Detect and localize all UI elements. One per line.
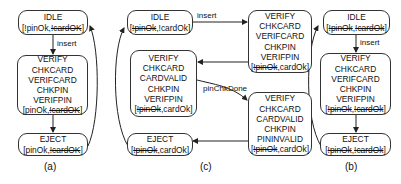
state-guard: [!pinOk,!cardOk] xyxy=(325,145,386,155)
state-line: VERIFCARD xyxy=(331,74,379,84)
guard-card: cardOk xyxy=(163,104,190,114)
state-guard: [!pinOk,cardOk] xyxy=(134,104,192,114)
state-guard: [!pinOk,cardOk] xyxy=(251,144,309,154)
state-line: CHKPIN xyxy=(148,84,180,94)
guard-card: !cardOk xyxy=(159,23,188,33)
state-line: CHKPIN xyxy=(340,84,372,94)
state-eject-c: EJECT [!pinOk,cardOk] xyxy=(127,133,193,156)
guard-pin: !pinOk xyxy=(253,62,277,72)
state-line: CHKPIN xyxy=(264,124,296,134)
guard-close: ] xyxy=(384,23,386,33)
state-line: VERIFY xyxy=(265,93,295,103)
state-line: CHKCARD xyxy=(335,64,376,74)
guard-close: ] xyxy=(383,145,385,155)
state-line: CARDVALID xyxy=(256,114,303,124)
guard-pin: !pinOk xyxy=(24,23,48,33)
state-line: VERIFPIN xyxy=(336,94,375,104)
guard-close: ] xyxy=(80,145,82,155)
panel-label-c: (c) xyxy=(200,161,212,172)
guard-pin: !pinOk xyxy=(328,145,352,155)
state-guard: [!pinOk,!cardOk] xyxy=(325,104,386,114)
guard-card: cardOk xyxy=(280,144,307,154)
state-line: CARDVALID xyxy=(140,73,187,83)
edge-label-insert-b: insert xyxy=(360,38,380,47)
state-name: EJECT xyxy=(342,134,369,144)
guard-close: ] xyxy=(307,144,309,154)
guard-card: cardOk xyxy=(280,62,307,72)
state-verify-left-c: VERIFY CHKCARD CARDVALID CHKPIN VERIFPIN… xyxy=(130,50,197,117)
state-line: VERIFY xyxy=(37,54,67,64)
state-guard: [!pinOk,!cardOk] xyxy=(326,23,387,33)
guard-pin: !pinOk xyxy=(253,144,277,154)
state-idle-b: IDLE [!pinOk,!cardOk] xyxy=(323,10,390,35)
state-guard: [!pinOk,!cardOk] xyxy=(130,23,191,33)
state-line: VERIFY xyxy=(340,53,370,63)
state-line: CHKPIN xyxy=(37,85,69,95)
state-name: EJECT xyxy=(147,134,174,144)
guard-close: ] xyxy=(80,105,82,115)
state-line: CHKPIN xyxy=(264,42,296,52)
state-line: CHKCARD xyxy=(259,104,300,114)
state-name: IDLE xyxy=(151,12,170,22)
state-guard: [pinOk,!cardOK] xyxy=(23,145,83,155)
state-guard: [!pinOk,cardOk] xyxy=(131,145,189,155)
state-guard: [!pinOk,!cardOK] xyxy=(22,23,84,33)
state-line: VERIFY xyxy=(148,53,178,63)
state-guard: [pinOk,!cardOK] xyxy=(23,105,83,115)
guard-card: cardOk xyxy=(160,145,187,155)
state-line: VERIFPIN xyxy=(261,52,300,62)
guard-close: ] xyxy=(383,104,385,114)
guard-close: ] xyxy=(190,104,192,114)
edge-label-insert-c: insert xyxy=(197,11,217,20)
state-verify-a: VERIFY CHKCARD VERIFCARD CHKPIN VERIFPIN… xyxy=(17,55,88,115)
state-eject-a: EJECT [pinOk,!cardOK] xyxy=(18,133,88,156)
state-line: CHKCARD xyxy=(259,21,300,31)
guard-close: ] xyxy=(307,62,309,72)
state-eject-b: EJECT [!pinOk,!cardOk] xyxy=(320,133,391,156)
guard-pin: pinOk xyxy=(25,105,47,115)
guard-close: ] xyxy=(82,23,84,33)
guard-card: !cardOk xyxy=(355,23,384,33)
state-name: IDLE xyxy=(44,12,63,22)
state-line: VERIFPIN xyxy=(33,95,72,105)
guard-pin: !pinOk xyxy=(137,104,161,114)
edge-label-pinchkdone-c: pinChkDone xyxy=(203,84,247,93)
state-line: VERIFCARD xyxy=(256,31,304,41)
state-verify-top-c: VERIFY CHKCARD VERIFCARD CHKPIN VERIFPIN… xyxy=(248,10,312,73)
state-verify-right-c: VERIFY CHKCARD CARDVALID CHKPIN PININVAL… xyxy=(248,92,312,156)
state-name: IDLE xyxy=(347,12,366,22)
panel-label-b: (b) xyxy=(345,161,357,172)
state-name: EJECT xyxy=(40,134,67,144)
panel-label-a: (a) xyxy=(44,161,56,172)
guard-pin: !pinOk xyxy=(133,145,157,155)
state-line: VERIFY xyxy=(265,11,295,21)
state-line: PININVALID xyxy=(257,134,303,144)
edge-label-insert-a: insert xyxy=(57,39,77,48)
guard-pin: !pinOk xyxy=(328,104,352,114)
state-line: VERIFCARD xyxy=(28,75,76,85)
state-idle-a: IDLE [!pinOk,!cardOK] xyxy=(18,10,88,35)
guard-pin: !pinOk xyxy=(329,23,353,33)
guard-card: !cardOk xyxy=(354,145,383,155)
guard-card: !cardOK xyxy=(49,105,80,115)
guard-pin: !pinOk xyxy=(132,23,156,33)
state-line: CHKCARD xyxy=(32,65,73,75)
state-line: CHKCARD xyxy=(143,63,184,73)
state-idle-c: IDLE [!pinOk,!cardOk] xyxy=(127,10,193,35)
guard-close: ] xyxy=(187,145,189,155)
guard-close: ] xyxy=(188,23,190,33)
guard-pin: pinOk xyxy=(26,145,48,155)
guard-card: !cardOK xyxy=(50,145,81,155)
guard-card: !cardOK xyxy=(51,23,82,33)
guard-card: !cardOk xyxy=(354,104,383,114)
state-verify-b: VERIFY CHKCARD VERIFCARD CHKPIN VERIFPIN… xyxy=(320,53,391,115)
state-line: VERIFPIN xyxy=(144,94,183,104)
state-guard: [!pinOk,cardOk] xyxy=(251,62,309,72)
